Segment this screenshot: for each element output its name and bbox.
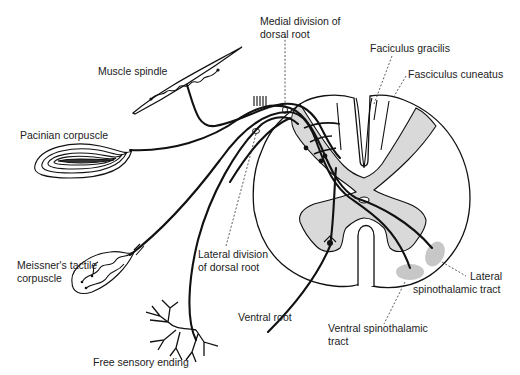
muscle-spindle xyxy=(133,47,242,114)
dorsal-rootlets xyxy=(254,96,266,106)
anterior-median-fissure xyxy=(358,226,374,287)
free-sensory-ending xyxy=(146,300,218,362)
ventral-horn-cell xyxy=(327,240,333,246)
label-muscle-spindle: Muscle spindle xyxy=(98,65,168,77)
spinal-cord-cross-section xyxy=(253,95,470,287)
leader-fasciculus-cuneatus xyxy=(393,76,406,98)
label-medial-division-2: dorsal root xyxy=(260,28,310,40)
synapse-dot xyxy=(319,159,324,164)
label-pacinian-corpuscle: Pacinian corpuscle xyxy=(20,129,108,141)
label-lateral-spinothalamic-2: spinothalamic tract xyxy=(413,283,501,295)
label-ventral-spinothalamic-2: tract xyxy=(328,335,349,347)
label-ventral-root: Ventral root xyxy=(238,311,292,323)
pacinian-corpuscle xyxy=(35,144,132,178)
label-lateral-division: Lateral division xyxy=(198,248,268,260)
sensory-pathway-diagram: Medial division of dorsal root Faciculus… xyxy=(0,0,520,375)
label-fasciculus-cuneatus: Fasciculus cuneatus xyxy=(408,68,503,80)
synapse-dot xyxy=(323,154,328,159)
label-medial-division: Medial division of xyxy=(260,15,341,27)
leader-ventral-spinothalamic xyxy=(384,282,405,324)
label-fasciculus-gracilis: Faciculus gracilis xyxy=(370,42,450,54)
label-lateral-spinothalamic: Lateral xyxy=(470,270,502,282)
label-meissner: Meissner's tactile xyxy=(17,259,97,271)
label-lateral-division-2: of dorsal root xyxy=(198,261,259,273)
synapse-dot xyxy=(304,146,309,151)
label-free-sensory-ending: Free sensory ending xyxy=(93,356,189,368)
label-ventral-spinothalamic: Ventral spinothalamic xyxy=(328,322,428,334)
leader-lateral-spinothalamic xyxy=(442,262,466,276)
label-meissner-2: corpuscle xyxy=(17,272,62,284)
